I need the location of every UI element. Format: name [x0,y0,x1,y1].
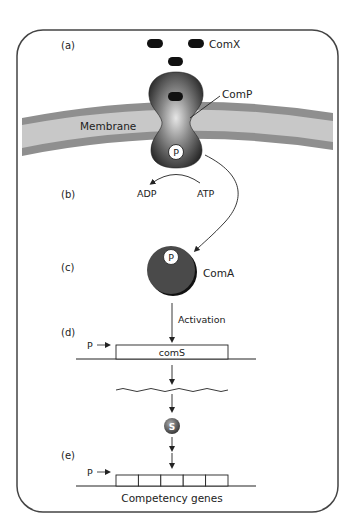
membrane-label: Membrane [80,120,136,132]
coms-protein: S [164,418,180,434]
panel-label-e: (e) [61,450,75,461]
coma-phosphate-label: P [168,252,174,263]
comx-ligand-icon [168,57,183,66]
comx-ligand-icon [147,39,163,48]
coms-gene-label: comS [159,347,185,358]
adp-label: ADP [137,188,157,199]
coma-protein: P [147,246,197,296]
phosphotransfer-arrow [196,155,238,250]
coms-mrna [116,389,228,392]
competency-gene-box [161,475,183,486]
competency-gene-box [206,475,228,486]
atp-adp-arrow [152,175,200,184]
comx-ligands [147,39,204,66]
bound-comx-ligand-icon [168,92,183,101]
panel-label-a: (a) [61,40,75,51]
panel-label-c: (c) [61,262,74,273]
activation-label: Activation [178,314,226,325]
panel-label-d: (d) [61,327,75,338]
coms-gene-region: P comS [76,340,256,359]
competency-genes-label: Competency genes [121,492,222,504]
atp-label: ATP [197,188,215,199]
comx-signaling-diagram: Membrane (a) (b) (c) (d) (e) ComX P ComP… [0,0,352,532]
promoter-d-label: P [87,340,93,351]
coma-label: ComA [203,267,235,279]
competency-genes-region: P [76,467,256,486]
competency-gene-box [183,475,205,486]
competency-gene-box [116,475,138,486]
panel-label-b: (b) [61,189,75,200]
comp-label: ComP [222,88,252,100]
competency-gene-box [138,475,160,486]
promoter-e-label: P [87,467,93,478]
coms-protein-label: S [169,422,175,432]
comx-ligand-icon [188,39,204,48]
comx-label: ComX [209,38,240,50]
phosphate-label: P [173,147,179,158]
